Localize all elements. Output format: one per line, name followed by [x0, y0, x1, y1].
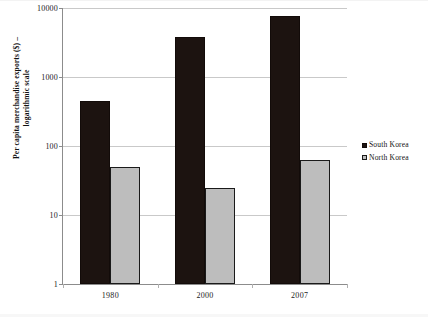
x-axis-category-label: 2007: [291, 291, 308, 300]
y-axis-title-line-2: logarithmic scale: [22, 0, 32, 198]
bar-north-korea-2007: [300, 160, 330, 284]
legend-item-north-korea: North Korea: [362, 152, 409, 165]
legend-item-south-korea: South Korea: [362, 139, 409, 152]
x-axis-tick: [63, 284, 64, 288]
y-axis-tick-label: 1: [54, 280, 58, 289]
x-axis-tick: [158, 284, 159, 288]
bar-north-korea-2000: [205, 188, 235, 284]
legend-swatch-icon: [362, 155, 367, 160]
y-axis-tick: [59, 146, 63, 147]
y-axis-tick-label: 1000: [41, 73, 58, 82]
y-axis-tick: [59, 215, 63, 216]
bar-south-korea-2000: [175, 37, 205, 284]
y-axis-tick: [59, 8, 63, 9]
y-axis-title-line-1: Per capita merchandise exports ($) –: [12, 37, 21, 159]
bar-south-korea-1980: [80, 101, 110, 284]
scan-edge-top: [0, 0, 428, 1]
legend-label: South Korea: [369, 139, 409, 152]
chart-legend: South KoreaNorth Korea: [362, 139, 409, 164]
chart-figure: Per capita merchandise exports ($) – log…: [0, 0, 428, 317]
x-axis-category-label: 1980: [102, 291, 119, 300]
x-axis-tick: [252, 284, 253, 288]
y-axis-tick-label: 10000: [37, 4, 58, 13]
gridline: [63, 77, 347, 78]
y-axis-tick-label: 100: [45, 142, 58, 151]
y-axis-tick: [59, 77, 63, 78]
bar-north-korea-1980: [110, 167, 140, 284]
bar-south-korea-2007: [270, 16, 300, 284]
gridline: [63, 8, 347, 9]
plot-area: 100001000100101 198020002007: [62, 8, 347, 285]
legend-swatch-icon: [362, 143, 367, 148]
legend-label: North Korea: [369, 152, 409, 165]
x-axis-tick: [347, 284, 348, 288]
x-axis-category-label: 2000: [196, 291, 213, 300]
y-axis-tick-label: 10: [50, 211, 58, 220]
y-axis-title: Per capita merchandise exports ($) – log…: [12, 0, 32, 198]
